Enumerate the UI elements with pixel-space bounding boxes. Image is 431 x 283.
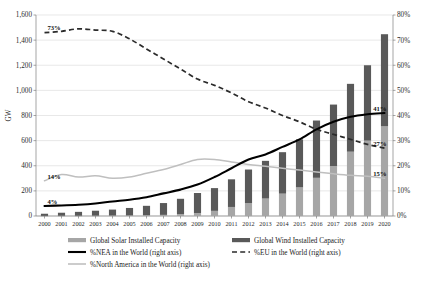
x-tick-label: 2016 xyxy=(310,220,322,227)
y-tick-label: 1,000 xyxy=(16,87,33,95)
y-tick-label: 1,400 xyxy=(16,37,33,45)
bar-segment-wind xyxy=(364,65,371,140)
gridlines xyxy=(36,15,393,216)
x-tick-label: 2007 xyxy=(157,220,169,227)
x-tick-label: 2004 xyxy=(106,220,118,227)
annotation-15: 15% xyxy=(373,170,386,177)
x-tick-label: 2020 xyxy=(378,220,390,227)
bar-series-group xyxy=(41,34,388,216)
bar-segment-solar xyxy=(143,215,150,216)
bar-segment-solar xyxy=(245,203,252,216)
legend-label[interactable]: %NEA in the World (right axis) xyxy=(90,249,182,257)
y-axis-right-ticks: 0%10%20%30%40%50%60%70%80% xyxy=(393,11,410,220)
y2-tick-label: 80% xyxy=(397,11,410,19)
x-tick-label: 2019 xyxy=(361,220,373,227)
x-tick-label: 2001 xyxy=(55,220,67,227)
chart-legend: Global Solar Installed CapacityGlobal Wi… xyxy=(68,237,345,269)
y2-tick-label: 60% xyxy=(397,62,410,70)
y-tick-label: 0 xyxy=(28,212,32,220)
bar-segment-solar xyxy=(194,213,201,216)
bar-segment-wind xyxy=(194,193,201,213)
x-tick-label: 2017 xyxy=(327,220,339,227)
chart-container: 02004006008001,0001,2001,4001,6000%10%20… xyxy=(0,0,431,283)
bar-segment-wind xyxy=(228,179,235,207)
y2-tick-label: 20% xyxy=(397,162,410,170)
x-tick-label: 2011 xyxy=(225,220,237,227)
bar-segment-wind xyxy=(143,206,150,215)
annotation-41: 41% xyxy=(373,105,386,112)
bar-segment-wind xyxy=(75,212,82,216)
bar-segment-solar xyxy=(211,211,218,216)
bar-segment-wind xyxy=(296,139,303,187)
bar-segment-wind xyxy=(58,213,65,216)
y2-tick-label: 70% xyxy=(397,37,410,45)
y-tick-label: 600 xyxy=(21,137,32,145)
y-tick-label: 800 xyxy=(21,112,32,120)
y-tick-label: 1,200 xyxy=(16,62,33,70)
y2-tick-label: 0% xyxy=(397,212,407,220)
bar-segment-wind xyxy=(109,210,116,216)
x-tick-label: 2015 xyxy=(293,220,305,227)
annotation-73: 73% xyxy=(48,24,61,31)
x-tick-label: 2013 xyxy=(259,220,271,227)
legend-marker-bar-swatch-dark xyxy=(232,238,250,242)
renewable-capacity-combo-chart: 02004006008001,0001,2001,4001,6000%10%20… xyxy=(0,0,431,283)
bar-segment-wind xyxy=(177,199,184,214)
bar-segment-solar xyxy=(160,215,167,216)
bar-segment-wind xyxy=(160,203,167,215)
y2-tick-label: 30% xyxy=(397,137,410,145)
y-tick-label: 200 xyxy=(21,187,32,195)
bar-segment-solar xyxy=(279,194,286,216)
legend-label[interactable]: %EU in the World (right axis) xyxy=(254,249,341,257)
x-tick-label: 2014 xyxy=(276,220,288,227)
y-axis-title: GW xyxy=(5,109,13,121)
legend-label[interactable]: %North America in the World (right axis) xyxy=(90,261,210,269)
bar-segment-solar xyxy=(296,187,303,216)
x-tick-label: 2005 xyxy=(123,220,135,227)
y2-tick-label: 50% xyxy=(397,87,410,95)
legend-marker-bar-swatch-light xyxy=(68,238,86,242)
bar-segment-solar xyxy=(313,178,320,216)
x-tick-label: 2012 xyxy=(242,220,254,227)
bar-segment-wind xyxy=(126,208,133,215)
x-tick-label: 2009 xyxy=(191,220,203,227)
x-tick-label: 2010 xyxy=(208,220,220,227)
bar-segment-wind xyxy=(92,211,99,216)
bar-segment-wind xyxy=(41,214,48,216)
y2-tick-label: 10% xyxy=(397,187,410,195)
legend-label[interactable]: Global Solar Installed Capacity xyxy=(90,237,181,245)
bar-segment-wind xyxy=(279,152,286,193)
annotation-4: 4% xyxy=(48,198,58,205)
y-tick-label: 400 xyxy=(21,162,32,170)
annotation-14: 14% xyxy=(48,173,61,180)
x-tick-label: 2018 xyxy=(344,220,356,227)
y2-tick-label: 40% xyxy=(397,112,410,120)
bar-segment-wind xyxy=(245,170,252,204)
y-tick-label: 1,600 xyxy=(16,11,33,19)
bar-segment-solar xyxy=(228,207,235,216)
bar-segment-solar xyxy=(126,215,133,216)
bar-segment-solar xyxy=(347,152,354,216)
y-axis-left-ticks: 02004006008001,0001,2001,4001,600 xyxy=(16,11,36,220)
bar-segment-solar xyxy=(364,141,371,216)
x-tick-label: 2003 xyxy=(89,220,101,227)
bar-segment-solar xyxy=(262,199,269,216)
x-tick-label: 2000 xyxy=(38,220,50,227)
x-tick-label: 2002 xyxy=(72,220,84,227)
legend-label[interactable]: Global Wind Installed Capacity xyxy=(254,237,345,245)
annotation-27: 27% xyxy=(373,140,386,147)
bar-segment-solar xyxy=(177,214,184,216)
bar-segment-wind xyxy=(211,188,218,211)
x-tick-label: 2006 xyxy=(140,220,152,227)
x-axis-labels: 2000200120022003200420052006200720082009… xyxy=(38,216,390,227)
x-tick-label: 2008 xyxy=(174,220,186,227)
